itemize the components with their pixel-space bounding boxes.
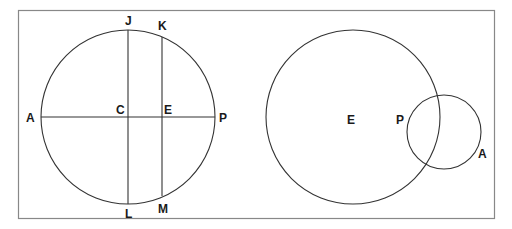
label-J: J [125, 14, 132, 28]
label-C: C [116, 103, 125, 117]
label-M: M [158, 202, 168, 216]
label-A-left: A [26, 111, 35, 125]
label-E-left: E [164, 103, 172, 117]
label-E-right: E [347, 113, 355, 127]
label-A-right: A [478, 147, 487, 161]
label-P-left: P [219, 111, 227, 125]
label-P-right: P [396, 113, 404, 127]
geometry-figure: J K A C E P L M E P A [0, 0, 512, 229]
right-panel: E P A [266, 30, 487, 204]
left-panel: J K A C E P L M [26, 14, 227, 221]
figure-frame [19, 11, 495, 219]
label-L: L [125, 207, 132, 221]
label-K: K [158, 19, 167, 33]
small-circle [407, 95, 481, 169]
